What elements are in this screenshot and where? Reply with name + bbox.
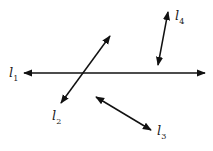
label-l2: l2 [52,109,61,126]
line-l2 [61,36,110,103]
label-l1: l1 [9,66,18,83]
label-l4: l4 [175,9,184,26]
line-l4 [158,12,168,65]
line-l3 [96,97,151,130]
label-l3: l3 [157,124,166,141]
